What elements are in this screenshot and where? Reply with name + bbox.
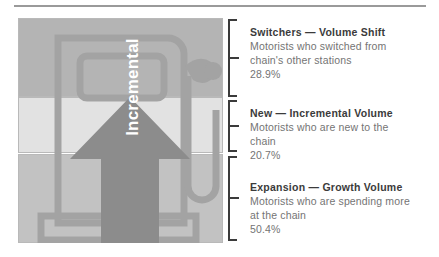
legend-desc-new-line1: Motorists who are new to the (250, 120, 436, 134)
up-arrow-icon: Incremental (18, 18, 223, 243)
legend-desc-expansion-line2: at the chain (250, 208, 436, 222)
legend-percent-expansion: 50.4% (250, 222, 436, 236)
legend-desc-new-line2: chain (250, 134, 436, 148)
top-divider-rule (14, 5, 426, 7)
incremental-volume-figure: Incremental Switchers — Volume Shift (0, 0, 439, 257)
legend-desc-expansion-line1: Motorists who are spending more (250, 194, 436, 208)
legend-percent-new: 20.7% (250, 148, 436, 162)
legend-desc-switchers-line1: Motorists who switched from (250, 39, 436, 53)
legend-item-new: New — Incremental Volume Motorists who a… (250, 106, 436, 162)
legend-title-switchers: Switchers — Volume Shift (250, 25, 436, 39)
bracket-icon-new (228, 100, 240, 152)
legend-item-expansion: Expansion — Growth Volume Motorists who … (250, 180, 436, 236)
legend-desc-switchers-line2: chain's other stations (250, 53, 436, 67)
legend-title-new: New — Incremental Volume (250, 106, 436, 120)
bracket-icon-switchers (228, 19, 240, 97)
legend-item-switchers: Switchers — Volume Shift Motorists who s… (250, 25, 436, 81)
legend-title-expansion: Expansion — Growth Volume (250, 180, 436, 194)
bracket-icon-expansion (228, 156, 240, 241)
arrow-label: Incremental (122, 22, 144, 152)
legend-percent-switchers: 28.9% (250, 67, 436, 81)
